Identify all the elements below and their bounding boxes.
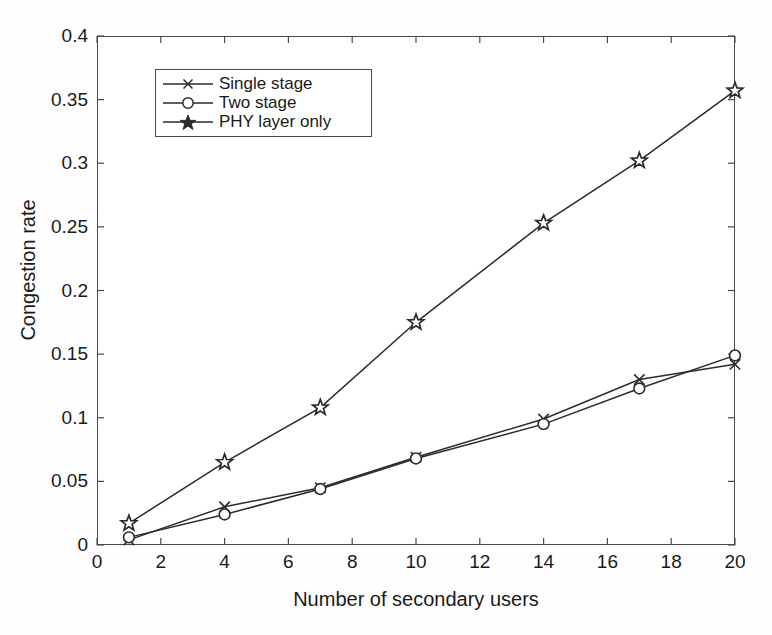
data-point-marker bbox=[538, 419, 549, 430]
data-point-marker bbox=[123, 532, 134, 543]
data-point-marker bbox=[219, 509, 230, 520]
chart-svg bbox=[0, 0, 772, 635]
data-point-marker bbox=[313, 399, 329, 414]
data-point-marker bbox=[730, 350, 741, 361]
data-point-marker bbox=[411, 453, 422, 464]
legend-item-phy-layer-only: PHY layer only bbox=[162, 112, 365, 131]
y-tick-label: 0.1 bbox=[62, 407, 88, 429]
data-point-marker bbox=[217, 454, 233, 469]
legend-label-single-stage: Single stage bbox=[219, 75, 313, 93]
x-axis-title: Number of secondary users bbox=[97, 588, 735, 611]
y-axis-title: Congestion rate bbox=[13, 10, 43, 530]
legend-item-single-stage: Single stage bbox=[162, 74, 365, 93]
x-tick-label: 14 bbox=[533, 551, 554, 573]
x-tick-label: 6 bbox=[283, 551, 294, 573]
y-tick-label: 0.2 bbox=[62, 280, 88, 302]
legend-marker-star-icon bbox=[162, 113, 214, 131]
y-tick-label: 0 bbox=[77, 534, 88, 556]
legend-item-two-stage: Two stage bbox=[162, 93, 365, 112]
y-tick-label: 0.25 bbox=[51, 216, 88, 238]
x-axis-title-text: Number of secondary users bbox=[293, 588, 539, 610]
y-tick-label: 0.4 bbox=[62, 25, 88, 47]
data-point-marker bbox=[634, 383, 645, 394]
y-tick-label: 0.15 bbox=[51, 343, 88, 365]
legend-label-phy-layer-only: PHY layer only bbox=[219, 113, 331, 131]
x-tick-label: 20 bbox=[724, 551, 745, 573]
y-axis-title-text: Congestion rate bbox=[17, 199, 40, 340]
x-tick-label: 18 bbox=[661, 551, 682, 573]
legend-marker-x-icon bbox=[162, 75, 214, 93]
legend-marker-circle-icon bbox=[162, 94, 214, 112]
x-tick-label: 4 bbox=[219, 551, 230, 573]
y-tick-label: 0.3 bbox=[62, 152, 88, 174]
y-tick-label: 0.35 bbox=[51, 89, 88, 111]
figure-canvas: 00.050.10.150.20.250.30.350.402468101214… bbox=[0, 0, 772, 635]
data-point-marker bbox=[121, 515, 137, 530]
y-tick-label: 0.05 bbox=[51, 470, 88, 492]
series-2 bbox=[121, 83, 743, 530]
x-tick-label: 10 bbox=[405, 551, 426, 573]
x-tick-label: 16 bbox=[597, 551, 618, 573]
data-point-marker bbox=[315, 484, 326, 495]
x-tick-label: 2 bbox=[156, 551, 167, 573]
x-tick-label: 8 bbox=[347, 551, 358, 573]
legend-label-two-stage: Two stage bbox=[219, 94, 297, 112]
x-tick-label: 12 bbox=[469, 551, 490, 573]
x-tick-label: 0 bbox=[92, 551, 103, 573]
chart-legend: Single stage Two stage PHY layer only bbox=[155, 69, 372, 137]
